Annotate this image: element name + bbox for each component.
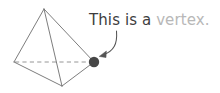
edge-apex-to-front (44, 9, 62, 86)
pointer-arrow-head (99, 51, 106, 58)
vertex-dot-marker (89, 57, 99, 67)
edge-right-to-front (62, 62, 94, 86)
edge-apex-to-right (44, 9, 94, 62)
annotation-highlight-text: vertex. (156, 11, 209, 29)
edge-left-to-front (14, 62, 62, 86)
pointer-arrow-shaft (104, 31, 117, 55)
annotation-primary-text: This is a (89, 11, 156, 29)
diagram-canvas: This is a vertex. (0, 0, 220, 93)
vertex-annotation-label: This is a vertex. (89, 11, 210, 30)
edge-apex-to-left (14, 9, 44, 62)
